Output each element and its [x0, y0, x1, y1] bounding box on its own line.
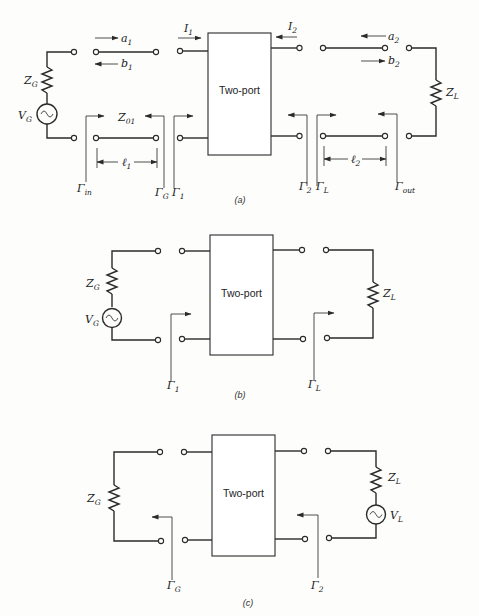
- two-port-label: Two-port: [219, 84, 260, 96]
- terminal-icon: [71, 49, 76, 54]
- transmission-line-1: a1 b1 Z01 ℓ1: [93, 32, 158, 171]
- zl-label: ZL: [445, 86, 459, 101]
- resistor-icon: [109, 485, 119, 511]
- load-circuit-c: ZL VL: [325, 448, 403, 540]
- gamma-in-label: Γin: [76, 182, 92, 197]
- zg-label: ZG: [23, 74, 38, 89]
- zg-label: ZG: [85, 277, 100, 292]
- gamma-l-label: ΓL: [315, 180, 329, 195]
- i1-label: I1: [183, 22, 193, 37]
- gamma-g-label: ΓG: [166, 579, 181, 594]
- gamma-2-label: Γ2: [298, 180, 312, 195]
- zl-label: ZL: [382, 287, 396, 302]
- a1-label: a1: [121, 32, 132, 47]
- gamma-g-label: ΓG: [154, 186, 169, 201]
- terminal-icon: [71, 135, 76, 140]
- caption-a: (a): [235, 195, 246, 205]
- zg-label: ZG: [86, 492, 101, 507]
- diagram-c: ZG ΓG Two-port Γ2 ZL VL (c): [86, 435, 403, 608]
- resistor-icon: [371, 467, 381, 493]
- diagram-a: ZG VG a1 b1 Z01 ℓ1 Γin: [18, 20, 459, 205]
- a2-label: a2: [388, 30, 400, 45]
- resistor-icon: [431, 80, 441, 106]
- two-port-label: Two-port: [223, 487, 264, 499]
- zl-label: ZL: [387, 471, 401, 486]
- load-circuit-b: ZL: [323, 247, 395, 340]
- generator-circuit-b: ZG VG: [85, 251, 155, 340]
- caption-c: (c): [243, 598, 254, 608]
- vl-label: VL: [390, 509, 403, 524]
- two-port-label: Two-port: [221, 287, 262, 299]
- vg-label: VG: [18, 109, 32, 124]
- diagram-b: ZG VG Γ1 Two-port ΓL ZL (b): [85, 235, 396, 400]
- caption-b: (b): [235, 390, 246, 400]
- generator-circuit-a: ZG VG: [18, 52, 72, 138]
- l2-label: ℓ2: [351, 153, 361, 168]
- z01-label: Z01: [117, 111, 135, 126]
- gamma-1-label: Γ1: [166, 379, 179, 394]
- generator-circuit-c: ZG: [86, 452, 158, 541]
- l1-label: ℓ1: [122, 156, 131, 171]
- b1-label: b1: [121, 57, 133, 72]
- b2-label: b2: [388, 54, 400, 69]
- gamma-out-label: Γout: [394, 180, 416, 195]
- transmission-line-2: a2 b2 ℓ2: [320, 30, 400, 168]
- gamma-2-label: Γ2: [310, 579, 324, 594]
- load-circuit-a: ZL: [406, 45, 458, 138]
- resistor-icon: [42, 67, 52, 93]
- gamma-1-label: Γ1: [171, 186, 184, 201]
- figure-canvas: ZG VG a1 b1 Z01 ℓ1 Γin: [0, 0, 479, 616]
- vg-label: VG: [85, 313, 99, 328]
- i2-label: I2: [287, 20, 297, 35]
- gamma-l-label: ΓL: [307, 378, 321, 393]
- resistor-icon: [368, 282, 378, 308]
- resistor-icon: [107, 268, 117, 294]
